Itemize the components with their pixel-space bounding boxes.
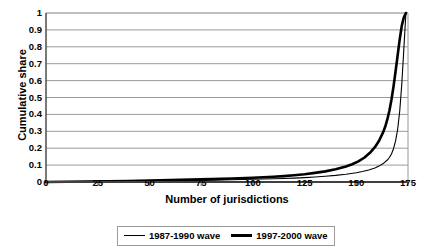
legend-item-1997-2000-wave: 1997-2000 wave <box>231 231 327 241</box>
x-axis-tick-label: 100 <box>233 178 273 188</box>
x-axis-tick-label: 150 <box>336 178 376 188</box>
legend-item-1987-1990-wave: 1987-1990 wave <box>124 231 220 241</box>
x-axis-tick-label: 75 <box>181 178 221 188</box>
legend-swatch-thick-line-icon <box>231 234 252 237</box>
x-axis-tick-label: 0 <box>26 178 66 188</box>
x-axis-title: Number of jurisdictions <box>46 193 408 205</box>
chart-container: Cumulative share 00.10.20.30.40.50.60.70… <box>0 0 431 252</box>
chart-legend: 1987-1990 wave 1997-2000 wave <box>117 226 335 246</box>
x-axis-tick-label: 25 <box>78 178 118 188</box>
legend-label: 1997-2000 wave <box>256 231 327 241</box>
x-axis-tick-label: 175 <box>388 178 428 188</box>
legend-label: 1987-1990 wave <box>149 231 220 241</box>
x-axis-tick-labels: 0255075100125150175 <box>0 0 431 252</box>
x-axis-tick-label: 50 <box>129 178 169 188</box>
x-axis-tick-label: 125 <box>285 178 325 188</box>
legend-swatch-thin-line-icon <box>124 235 145 236</box>
